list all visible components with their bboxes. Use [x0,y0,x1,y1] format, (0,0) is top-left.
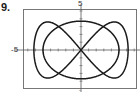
graph [0,0,140,94]
